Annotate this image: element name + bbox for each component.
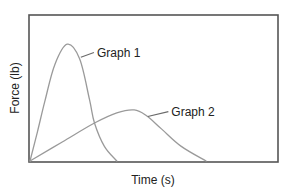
force-time-chart: Graph 1Graph 2 Time (s) Force (lb) xyxy=(0,0,287,190)
series-label-2: Graph 2 xyxy=(171,105,215,119)
leader-line-1 xyxy=(81,53,94,58)
y-axis-label: Force (lb) xyxy=(8,62,22,113)
series-label-1: Graph 1 xyxy=(97,46,141,60)
x-axis-label: Time (s) xyxy=(131,173,175,187)
leader-line-2 xyxy=(148,112,169,117)
series-line-1 xyxy=(30,44,117,161)
annotation-group: Graph 1Graph 2 xyxy=(81,46,215,119)
series-group xyxy=(30,44,206,161)
